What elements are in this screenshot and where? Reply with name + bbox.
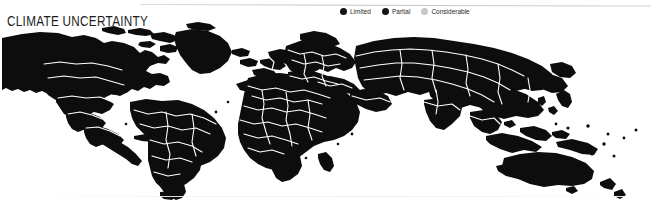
- filled-circle-icon: [382, 8, 389, 15]
- legend-item-label: Considerable: [431, 8, 469, 15]
- legend-item-label: Partial: [392, 8, 410, 15]
- filled-circle-icon: [421, 8, 428, 15]
- landmass-south-america: [130, 99, 226, 200]
- scan-artifact-rule-top: [140, 4, 651, 7]
- world-map: [0, 16, 651, 202]
- climate-uncertainty-map-figure: CLIMATE UNCERTAINTY Limited Partial Cons…: [0, 0, 651, 215]
- world-map-svg: [0, 16, 651, 202]
- landmass-indonesia: [486, 120, 598, 155]
- map-legend: Limited Partial Considerable: [340, 8, 470, 15]
- landmass-asia: [350, 37, 576, 134]
- filled-circle-icon: [340, 8, 347, 15]
- legend-item-label: Limited: [350, 8, 371, 15]
- legend-item-considerable[interactable]: Considerable: [421, 8, 469, 15]
- landmass-australia: [496, 152, 626, 199]
- legend-item-partial[interactable]: Partial: [382, 8, 410, 15]
- legend-item-limited[interactable]: Limited: [340, 8, 371, 15]
- scan-artifact-rule-bottom: [0, 196, 651, 197]
